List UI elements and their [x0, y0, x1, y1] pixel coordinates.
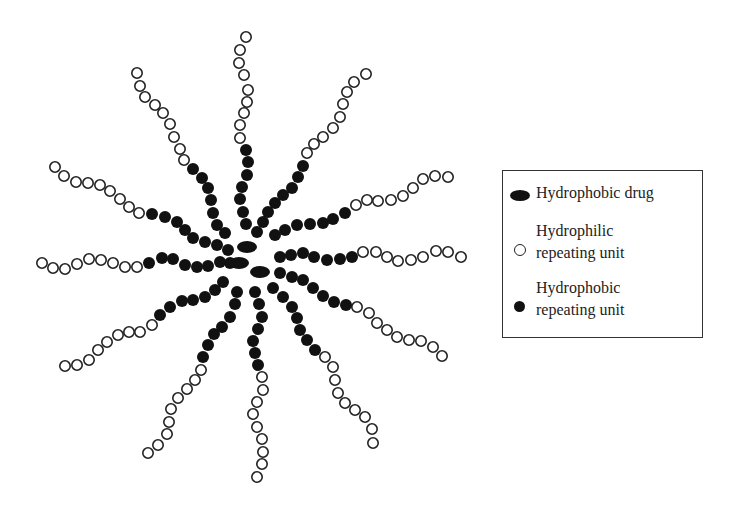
hydrophilic-bead: [320, 352, 330, 362]
hydrophilic-bead: [150, 100, 160, 110]
hydrophobic-bead: [187, 163, 199, 175]
hydrophobic-bead: [211, 239, 223, 251]
filled-circle-icon: [514, 301, 525, 312]
hydrophilic-bead: [309, 139, 319, 149]
hydrophilic-bead: [318, 132, 328, 142]
drug-molecule: [237, 241, 257, 253]
hydrophobic-bead: [297, 274, 309, 286]
hydrophilic-bead: [350, 405, 360, 415]
hydrophobic-bead: [251, 226, 263, 238]
drug-molecule: [229, 257, 249, 269]
legend-label-line1: Hydrophobic: [536, 278, 620, 298]
hydrophobic-bead: [240, 218, 252, 230]
legend: Hydrophobic drug Hydrophilic repeating u…: [502, 170, 703, 338]
hydrophilic-bead: [196, 365, 206, 375]
hydrophobic-bead: [307, 282, 319, 294]
hydrophilic-bead: [135, 327, 145, 337]
hydrophobic-bead: [279, 224, 291, 236]
hydrophobic-bead: [274, 251, 286, 263]
hydrophilic-bead: [443, 247, 453, 257]
hydrophobic-bead: [249, 286, 261, 298]
hydrophobic-bead: [202, 182, 214, 194]
hydrophilic-bead: [333, 388, 343, 398]
hydrophilic-bead: [243, 85, 253, 95]
hydrophobic-bead: [327, 213, 339, 225]
hydrophilic-bead: [328, 362, 338, 372]
hydrophobic-bead: [340, 299, 352, 311]
hydrophilic-bead: [373, 196, 383, 206]
hydrophilic-bead: [364, 308, 374, 318]
hydrophobic-bead: [267, 282, 279, 294]
hydrophilic-bead: [182, 384, 192, 394]
hydrophilic-bead: [386, 195, 396, 205]
hydrophilic-bead: [60, 361, 70, 371]
hydrophilic-bead: [113, 330, 123, 340]
hydrophobic-bead: [308, 251, 320, 263]
hydrophobic-bead: [211, 219, 223, 231]
hydrophilic-bead: [408, 183, 418, 193]
hydrophilic-bead: [235, 120, 245, 130]
hydrophilic-bead: [257, 459, 267, 469]
hydrophobic-bead: [208, 328, 220, 340]
hydrophilic-bead: [179, 155, 189, 165]
hydrophilic-bead: [84, 254, 94, 264]
hydrophobic-bead: [231, 286, 243, 298]
hydrophilic-bead: [143, 448, 153, 458]
hydrophilic-bead: [102, 337, 112, 347]
hydrophobic-bead: [286, 271, 298, 283]
hydrophilic-bead: [252, 397, 262, 407]
hydrophilic-bead: [59, 171, 69, 181]
hydrophobic-bead: [346, 251, 358, 263]
hydrophilic-bead: [48, 263, 58, 273]
hydrophobic-bead: [159, 211, 171, 223]
hydrophilic-bead: [382, 252, 392, 262]
hydrophilic-bead: [115, 194, 125, 204]
hydrophobic-bead: [277, 291, 289, 303]
hydrophobic-bead: [222, 244, 234, 256]
legend-label: Hydrophobic drug: [536, 183, 654, 203]
hydrophilic-bead: [165, 119, 175, 129]
hydrophilic-bead: [335, 112, 345, 122]
hydrophobic-bead: [291, 219, 303, 231]
hydrophobic-bead: [236, 181, 248, 193]
hydrophilic-bead: [257, 372, 267, 382]
hydrophilic-bead: [140, 92, 150, 102]
hydrophilic-bead: [105, 186, 115, 196]
drug-core: [229, 241, 270, 278]
drug-molecule: [250, 266, 270, 278]
hydrophilic-bead: [342, 87, 352, 97]
hydrophilic-bead: [430, 171, 440, 181]
hydrophobic-bead: [199, 291, 211, 303]
hydrophilic-bead: [248, 409, 258, 419]
hydrophilic-bead: [95, 180, 105, 190]
hydrophilic-bead: [351, 200, 361, 210]
hydrophobic-bead: [202, 339, 214, 351]
hydrophilic-bead: [158, 108, 168, 118]
hydrophilic-bead: [239, 70, 249, 80]
hydrophilic-bead: [166, 404, 176, 414]
hydrophilic-bead: [252, 472, 262, 482]
hydrophobic-bead: [252, 323, 264, 335]
hydrophobic-bead: [196, 172, 208, 184]
hydrophilic-bead: [431, 246, 441, 256]
hydrophobic-bead: [207, 207, 219, 219]
hydrophobic-bead: [253, 298, 265, 310]
hydrophobic-bead: [291, 312, 303, 324]
hydrophilic-bead: [418, 174, 428, 184]
hydrophilic-bead: [393, 256, 403, 266]
hydrophobic-bead: [154, 309, 166, 321]
hydrophobic-bead: [249, 347, 261, 359]
hydrophobic-bead: [252, 359, 264, 371]
hydrophilic-bead: [367, 424, 377, 434]
hydrophilic-bead: [37, 258, 47, 268]
hydrophobic-bead: [317, 290, 329, 302]
hydrophilic-bead: [135, 81, 145, 91]
hydrophilic-bead: [124, 327, 134, 337]
hydrophobic-bead: [202, 260, 214, 272]
hydrophilic-bead: [72, 259, 82, 269]
hydrophobic-bead: [214, 256, 226, 268]
hydrophilic-bead: [235, 45, 245, 55]
hydrophobic-bead: [199, 236, 211, 248]
hydrophilic-bead: [71, 177, 81, 187]
hydrophobic-bead: [167, 253, 179, 265]
